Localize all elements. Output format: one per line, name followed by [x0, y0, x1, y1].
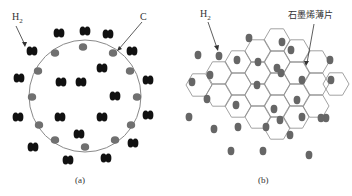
h2-molecule-icon: [76, 77, 87, 86]
arrowhead-icon: [214, 45, 219, 51]
h2-label-a: H2: [12, 12, 23, 25]
graphene-hexagon: [303, 73, 329, 95]
carbon-ring: [29, 40, 141, 152]
h2-molecule-icon: [54, 28, 65, 37]
arrowhead-icon: [22, 42, 27, 47]
carbon-atom-icon: [127, 121, 135, 129]
carbon-atom-icon: [111, 136, 119, 144]
carbon-label: C: [140, 12, 147, 22]
h2-molecule-icon: [216, 52, 223, 60]
h2-molecule-icon: [128, 138, 139, 147]
h2-molecule-icon: [254, 81, 261, 89]
h2-molecule-icon: [143, 110, 154, 119]
carbon-atom-icon: [35, 121, 43, 129]
h2-molecule-icon: [80, 26, 91, 35]
carbon-atom-icon: [133, 93, 141, 101]
caption-b: (b): [258, 176, 269, 185]
h2-molecule-icon: [211, 125, 218, 133]
carbon-atom-icon: [34, 67, 42, 75]
h2-molecule-icon: [255, 58, 262, 66]
carbon-atom-icon: [109, 49, 117, 57]
graphene-pointer-arrow: [307, 24, 314, 63]
caption-a: (a): [75, 176, 85, 185]
graphene-sheet-diagram: [176, 0, 352, 196]
h2-molecule-icon: [288, 46, 295, 54]
h2-molecule-icon: [13, 112, 24, 121]
h2-molecule-icon: [101, 153, 112, 162]
h2-molecule-icon: [28, 142, 39, 151]
h2-molecule-icon: [74, 129, 85, 138]
panel-a-carbon-ring: H2 C (a): [0, 0, 176, 196]
h2-molecule-icon: [127, 46, 138, 55]
graphene-hexagon: [323, 73, 349, 95]
h2-molecule-icon: [299, 113, 306, 121]
h2-molecule-icon: [246, 34, 253, 42]
h2-pointer-arrow: [208, 22, 217, 48]
h2-label-b: H2: [200, 9, 211, 22]
h2-molecule-icon: [207, 71, 214, 79]
panel-b-graphene-sheet: H2 石墨烯薄片 (b): [176, 0, 352, 196]
h2-molecule-icon: [263, 123, 270, 131]
h2-molecule-icon: [278, 69, 285, 77]
h2-molecule-icon: [56, 77, 67, 86]
h2-molecule-icon: [327, 56, 334, 64]
h2-molecule-icon: [186, 113, 193, 121]
h2-molecule-icon: [328, 76, 335, 84]
h2-molecule-icon: [235, 123, 242, 131]
carbon-atom-icon: [79, 43, 87, 51]
h2-molecule-icon: [195, 51, 202, 59]
h2-molecule-icon: [287, 131, 294, 139]
carbon-atom-icon: [51, 49, 59, 57]
h2-molecule-icon: [204, 95, 211, 103]
h2-molecule-icon: [271, 105, 278, 113]
h2-molecule-icon: [233, 101, 240, 109]
carbon-atom-icon: [126, 67, 134, 75]
h2-molecule-icon: [228, 147, 235, 155]
h2-molecule-icon: [279, 38, 286, 46]
h2-molecule-icon: [277, 116, 284, 124]
graphene-sheet-label: 石墨烯薄片: [288, 11, 333, 20]
h2-molecule-icon: [299, 76, 306, 84]
carbon-atom-icon: [51, 136, 59, 144]
carbon-atom-icon: [28, 93, 36, 101]
h2-molecule-icon: [318, 114, 325, 122]
h2-molecule-icon: [97, 112, 108, 121]
h2-molecule-icon: [189, 78, 196, 86]
h2-molecule-icon: [63, 155, 74, 164]
h2-molecule-icon: [306, 151, 313, 159]
h2-molecule-icon: [55, 112, 66, 121]
h2-molecule-icon: [97, 63, 108, 72]
h2-molecule-icon: [27, 46, 38, 55]
h2-molecule-icon: [103, 29, 114, 38]
h2-molecule-icon: [14, 73, 25, 82]
carbon-pointer-arrow: [119, 22, 142, 49]
h2-molecule-icon: [234, 56, 241, 64]
h2-molecule-icon: [143, 75, 154, 84]
h2-molecule-icon: [260, 147, 267, 155]
carbon-atom-icon: [81, 143, 89, 151]
h2-molecule-icon: [110, 91, 121, 100]
h2-molecule-icon: [294, 96, 301, 104]
graphene-hexagon: [206, 84, 232, 106]
carbon-ring-diagram: [0, 0, 176, 196]
